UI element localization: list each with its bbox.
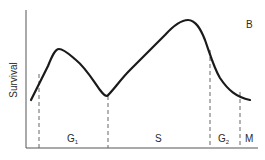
panel-label: B [246, 19, 253, 30]
phase-label-g1: G1 [67, 133, 79, 145]
phase-label-s: S [155, 133, 162, 144]
survival-curve [31, 20, 250, 100]
survival-cell-cycle-diagram: Survival B G1 S G2 M [0, 0, 265, 160]
phase-label-g2: G2 [218, 133, 230, 145]
y-axis-label: Survival [8, 62, 19, 98]
phase-label-m: M [245, 133, 253, 144]
